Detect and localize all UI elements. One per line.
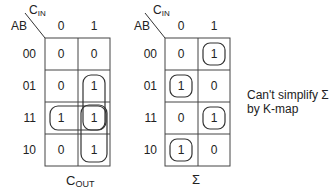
cell: 0 bbox=[211, 79, 218, 93]
cell: 1 bbox=[178, 143, 185, 157]
row-var-label: AB bbox=[134, 19, 150, 33]
cell: 0 bbox=[91, 47, 98, 61]
row-header-00: 00 bbox=[23, 47, 37, 61]
cell: 0 bbox=[58, 79, 65, 93]
kmap-title: COUT bbox=[66, 173, 95, 189]
note-line-1: Can't simplify Σ bbox=[247, 88, 329, 102]
row-header-10: 10 bbox=[23, 143, 37, 157]
col-header-0: 0 bbox=[58, 19, 65, 33]
cell: 1 bbox=[91, 143, 98, 157]
row-header-01: 01 bbox=[23, 79, 37, 93]
col-header-1: 1 bbox=[91, 19, 98, 33]
cell: 1 bbox=[91, 79, 98, 93]
cell: 0 bbox=[178, 47, 185, 61]
col-var-label: CIN bbox=[29, 3, 46, 18]
cell: 1 bbox=[211, 47, 218, 61]
cell: 0 bbox=[58, 47, 65, 61]
row-header-10: 10 bbox=[144, 143, 158, 157]
row-header-01: 01 bbox=[144, 79, 158, 93]
kmap-sum: CIN AB 0 1 00 01 11 10 0 1 1 0 0 1 1 0 Σ bbox=[134, 3, 230, 187]
cell: 0 bbox=[178, 111, 185, 125]
annotation-note: Can't simplify Σ by K-map bbox=[247, 88, 329, 116]
kmap-title: Σ bbox=[192, 172, 200, 187]
col-header-0: 0 bbox=[178, 19, 185, 33]
col-header-1: 1 bbox=[211, 19, 218, 33]
note-line-2: by K-map bbox=[247, 102, 329, 116]
row-header-00: 00 bbox=[144, 47, 158, 61]
cell: 0 bbox=[58, 143, 65, 157]
row-var-label: AB bbox=[11, 19, 27, 33]
row-header-11: 11 bbox=[145, 111, 158, 125]
cell: 0 bbox=[211, 143, 218, 157]
cell: 1 bbox=[58, 111, 65, 125]
cell: 1 bbox=[91, 111, 98, 125]
cell: 1 bbox=[178, 79, 185, 93]
kmap-cout: CIN AB 0 1 00 01 11 10 0 0 0 1 1 1 0 1 C… bbox=[11, 3, 110, 189]
cell: 1 bbox=[211, 111, 218, 125]
row-header-11: 11 bbox=[24, 111, 37, 125]
col-var-label: CIN bbox=[153, 3, 170, 18]
